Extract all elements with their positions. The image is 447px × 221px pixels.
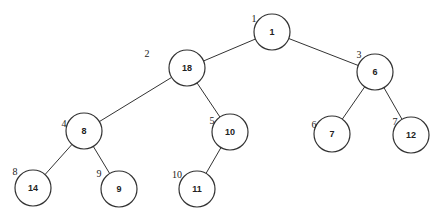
tree-edge-5-10	[206, 148, 221, 174]
node-index-label: 6	[312, 119, 317, 130]
node-index-label: 5	[210, 115, 215, 126]
tree-node-8: 148	[13, 166, 52, 207]
node-index-label: 2	[145, 48, 150, 59]
tree-nodes: 11182638410576127148991110	[13, 13, 430, 208]
node-index-label: 10	[172, 169, 182, 180]
tree-node-2: 182	[145, 48, 206, 87]
node-value: 18	[182, 63, 192, 73]
node-value: 12	[406, 130, 416, 140]
node-index-label: 7	[393, 116, 398, 127]
tree-edge-4-8	[45, 144, 72, 174]
node-value: 1	[269, 27, 274, 37]
node-value: 8	[81, 126, 86, 136]
node-value: 11	[192, 184, 202, 194]
tree-node-7: 127	[393, 116, 430, 154]
tree-node-3: 63	[357, 49, 394, 91]
node-index-label: 1	[252, 13, 257, 24]
node-index-label: 4	[62, 118, 67, 129]
node-value: 6	[372, 67, 377, 77]
tree-node-9: 99	[97, 168, 138, 208]
binary-tree-diagram: 11182638410576127148991110	[0, 0, 447, 221]
node-index-label: 9	[97, 168, 102, 179]
node-index-label: 3	[357, 49, 362, 60]
tree-node-1: 11	[252, 13, 291, 51]
tree-edge-1-2	[204, 39, 256, 61]
node-value: 14	[28, 183, 38, 193]
tree-node-4: 84	[62, 113, 103, 149]
node-value: 10	[225, 127, 235, 137]
tree-edge-1-3	[289, 39, 358, 66]
tree-node-6: 76	[312, 116, 351, 152]
tree-edge-2-4	[99, 77, 171, 121]
tree-edge-2-5	[197, 83, 220, 117]
tree-edge-3-6	[342, 87, 364, 119]
tree-node-5: 105	[210, 114, 249, 150]
tree-node-10: 1110	[172, 169, 215, 208]
node-value: 7	[329, 129, 334, 139]
node-index-label: 8	[13, 166, 18, 177]
node-value: 9	[116, 184, 121, 194]
tree-edges	[45, 39, 402, 175]
